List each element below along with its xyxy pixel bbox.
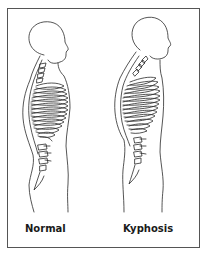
kyphosis-head-outline <box>132 17 171 59</box>
normal-sacrum <box>34 172 44 190</box>
kyphosis-rib-cage <box>123 77 160 133</box>
normal-head-outline <box>29 22 68 64</box>
kyphosis-figure <box>115 17 171 212</box>
kyphosis-sacrum <box>129 165 139 184</box>
normal-front-outline <box>58 63 70 212</box>
kyphosis-lumbar-spine <box>129 137 146 184</box>
normal-cervical-spine <box>37 63 46 83</box>
normal-label: Normal <box>25 223 66 234</box>
normal-rib-cage <box>31 83 68 141</box>
posture-illustration <box>0 0 207 254</box>
kyphosis-label: Kyphosis <box>123 223 173 234</box>
normal-figure <box>23 22 70 212</box>
kyphosis-front-outline <box>160 60 164 212</box>
kyphosis-back-outline <box>115 52 136 212</box>
normal-back-outline <box>23 56 40 212</box>
normal-lumbar-spine <box>34 144 51 190</box>
kyphosis-cervical-spine <box>133 56 148 76</box>
